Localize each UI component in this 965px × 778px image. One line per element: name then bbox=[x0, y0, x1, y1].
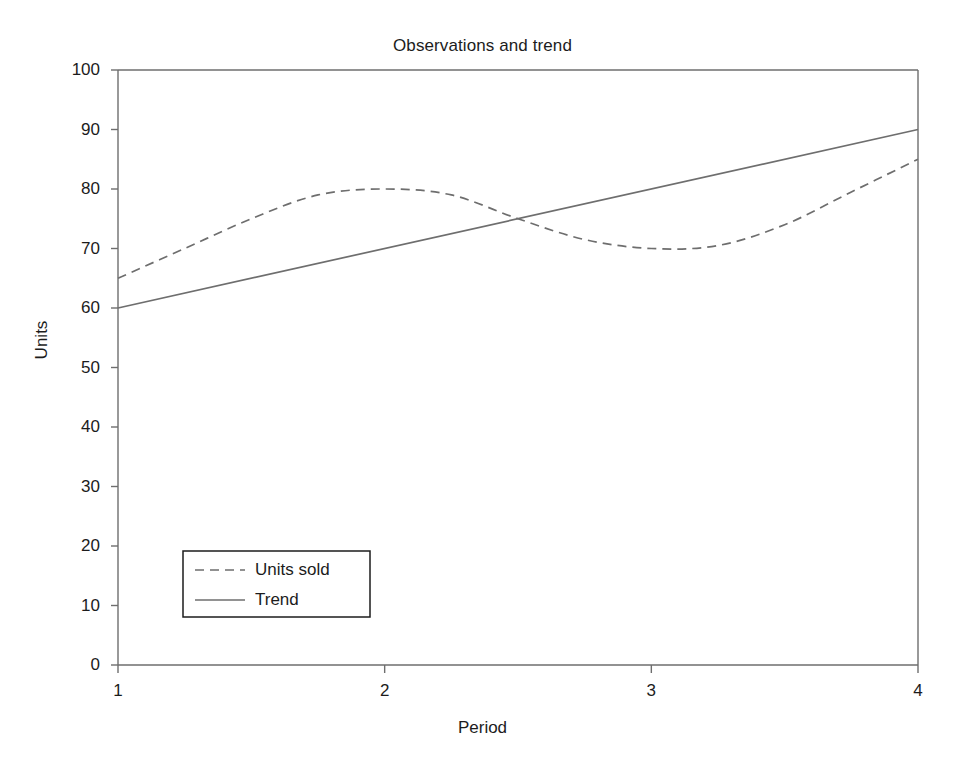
x-tick-label: 4 bbox=[888, 682, 948, 699]
y-tick-label: 0 bbox=[30, 656, 100, 673]
y-tick-label: 100 bbox=[30, 61, 100, 78]
legend-label-2: Trend bbox=[255, 591, 299, 608]
y-tick-label: 80 bbox=[30, 180, 100, 197]
y-tick-label: 40 bbox=[30, 418, 100, 435]
y-tick-label: 10 bbox=[30, 597, 100, 614]
y-tick-label: 30 bbox=[30, 478, 100, 495]
x-tick-label: 2 bbox=[355, 682, 415, 699]
chart-title: Observations and trend bbox=[0, 36, 965, 56]
x-axis-label: Period bbox=[0, 718, 965, 738]
y-tick-label: 90 bbox=[30, 121, 100, 138]
y-tick-label: 50 bbox=[30, 359, 100, 376]
legend-label-1: Units sold bbox=[255, 561, 330, 578]
y-tick-label: 20 bbox=[30, 537, 100, 554]
plot-area bbox=[0, 0, 965, 778]
x-tick-label: 1 bbox=[88, 682, 148, 699]
y-tick-label: 70 bbox=[30, 240, 100, 257]
y-tick-label: 60 bbox=[30, 299, 100, 316]
chart-figure: Observations and trend Units Period 0102… bbox=[0, 0, 965, 778]
x-tick-label: 3 bbox=[621, 682, 681, 699]
data-series bbox=[118, 130, 918, 309]
y-axis-label: Units bbox=[32, 280, 52, 400]
